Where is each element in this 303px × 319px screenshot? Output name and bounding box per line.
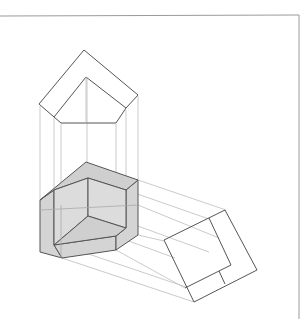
- side-view-step-line: [219, 271, 225, 284]
- top-view-outline: [39, 50, 138, 123]
- frame-border: [0, 15, 299, 319]
- top-view-inner-step: [54, 77, 126, 117]
- isometric-solid: [40, 162, 138, 258]
- top-view: [39, 50, 138, 123]
- projection-diagram: [0, 0, 303, 319]
- side-view-outline: [164, 210, 257, 302]
- side-view: [164, 210, 257, 302]
- side-view-inner-step: [185, 218, 231, 288]
